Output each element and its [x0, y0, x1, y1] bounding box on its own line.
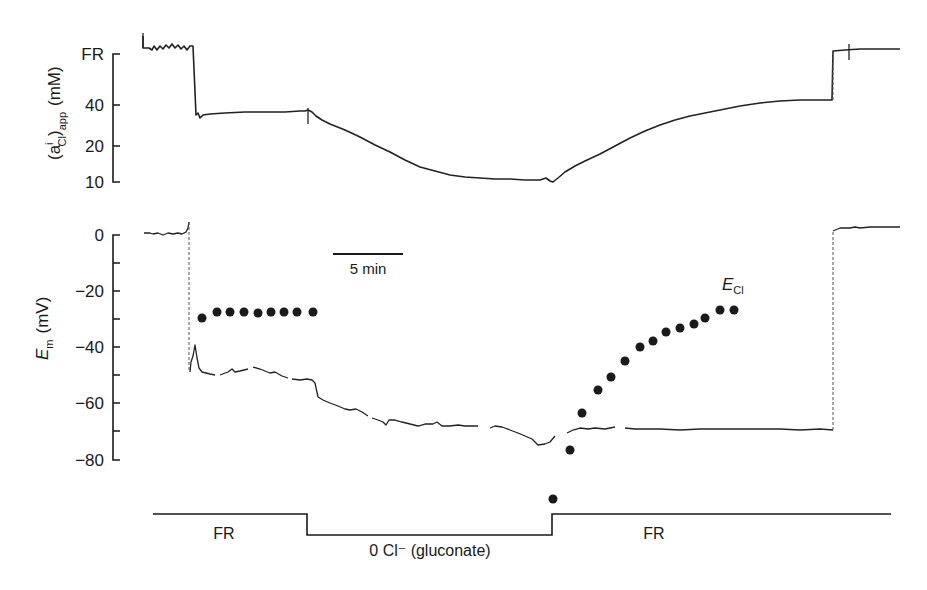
membrane-potential-trace-3: [833, 227, 900, 231]
ecl-dot: [594, 386, 603, 395]
top-panel: FR 40 20 10 (aiCl)app(mM): [43, 33, 900, 192]
ecl-dot: [213, 308, 222, 317]
top-tick-40: 40: [85, 96, 104, 115]
cl-activity-trace: [143, 36, 900, 182]
ecl-dot: [649, 337, 658, 346]
ecl-dot: [280, 308, 289, 317]
ecl-dot: [309, 308, 318, 317]
bottom-tick-0: 0: [95, 226, 104, 245]
top-tick-10: 10: [85, 173, 104, 192]
bottom-tick-minus60: −60: [75, 394, 104, 413]
bottom-y-axis: [113, 235, 120, 460]
ecl-dot: [549, 495, 558, 504]
solution-timeline: [153, 514, 891, 535]
ecl-dot: [226, 308, 235, 317]
membrane-potential-trace: [144, 222, 189, 235]
ecl-dot: [636, 343, 645, 352]
svg-text:(aiCl)app(mM): (aiCl)app(mM): [43, 66, 68, 160]
time-scale-label: 5 min: [350, 260, 387, 277]
top-tick-20: 20: [85, 137, 104, 156]
ecl-dots: [198, 306, 739, 504]
top-y-axis: [113, 54, 120, 182]
ecl-dot: [267, 308, 276, 317]
ecl-dot: [730, 306, 739, 315]
figure: FR 40 20 10 (aiCl)app(mM) 0 −20 −40 −60 …: [0, 0, 927, 590]
ecl-dot: [566, 446, 575, 455]
ecl-dot: [240, 308, 249, 317]
ecl-dot: [621, 357, 630, 366]
membrane-potential-trace-2: [190, 345, 833, 445]
ecl-dot: [254, 309, 263, 318]
bottom-tick-minus20: −20: [75, 282, 104, 301]
svg-text:Em(mV): Em(mV): [33, 297, 55, 360]
top-y-label: (aiCl)app(mM): [43, 66, 68, 160]
bottom-tick-minus40: −40: [75, 338, 104, 357]
ecl-dot: [578, 409, 587, 418]
ecl-dot: [293, 308, 302, 317]
ecl-dot: [607, 373, 616, 382]
ecl-dot: [662, 328, 671, 337]
solution-label-fr-2: FR: [643, 525, 664, 542]
ecl-dot: [676, 324, 685, 333]
bottom-panel: 0 −20 −40 −60 −80 Em(mV): [33, 222, 900, 504]
solution-bar: FR 0 Cl⁻ (gluconate) FR: [153, 514, 891, 559]
solution-label-fr-1: FR: [213, 525, 234, 542]
top-tick-fr: FR: [81, 45, 104, 64]
ecl-dot: [690, 320, 699, 329]
ecl-dot: [198, 314, 207, 323]
ecl-annotation: ECl: [722, 275, 744, 296]
solution-label-zero-cl: 0 Cl⁻ (gluconate): [369, 542, 490, 559]
ecl-dot: [701, 314, 710, 323]
bottom-y-label: Em(mV): [33, 297, 55, 360]
ecl-dot: [716, 306, 725, 315]
bottom-tick-minus80: −80: [75, 451, 104, 470]
